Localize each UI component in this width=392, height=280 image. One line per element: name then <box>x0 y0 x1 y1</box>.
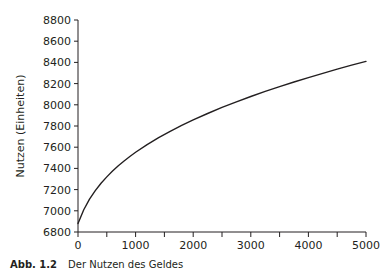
y-axis-title: Nutzen (Einheiten) <box>14 75 27 178</box>
y-tick-label: 8000 <box>43 99 71 112</box>
x-axis-tick-labels: 010002000300040005000 <box>75 239 381 252</box>
caption-number: Abb. 1.2 <box>10 259 57 270</box>
caption-text: Der Nutzen des Geldes <box>68 259 183 270</box>
x-tick-label: 5000 <box>352 239 380 252</box>
x-tick-label: 2000 <box>179 239 207 252</box>
x-tick-label: 3000 <box>237 239 265 252</box>
utility-curve-line <box>78 61 366 223</box>
y-tick-label: 8600 <box>43 35 71 48</box>
chart-axes <box>78 20 366 232</box>
x-tick-label: 1000 <box>122 239 150 252</box>
y-tick-label: 7400 <box>43 162 71 175</box>
x-tick-label: 0 <box>75 239 82 252</box>
axis-frame <box>78 20 366 232</box>
y-tick-label: 7800 <box>43 120 71 133</box>
y-tick-label: 7600 <box>43 141 71 154</box>
y-tick-label: 7000 <box>43 205 71 218</box>
y-axis-ticks <box>74 20 78 232</box>
utility-curve-chart: 6800700072007400760078008000820084008600… <box>0 0 392 258</box>
y-axis-tick-labels: 6800700072007400760078008000820084008600… <box>43 14 71 239</box>
y-tick-label: 7200 <box>43 184 71 197</box>
figure-container: 6800700072007400760078008000820084008600… <box>0 0 392 280</box>
y-tick-label: 6800 <box>43 226 71 239</box>
figure-caption: Abb. 1.2Der Nutzen des Geldes <box>10 259 183 270</box>
x-axis-minor-ticks <box>107 232 337 237</box>
x-tick-label: 4000 <box>294 239 322 252</box>
y-tick-label: 8200 <box>43 78 71 91</box>
y-tick-label: 8400 <box>43 56 71 69</box>
y-tick-label: 8800 <box>43 14 71 27</box>
